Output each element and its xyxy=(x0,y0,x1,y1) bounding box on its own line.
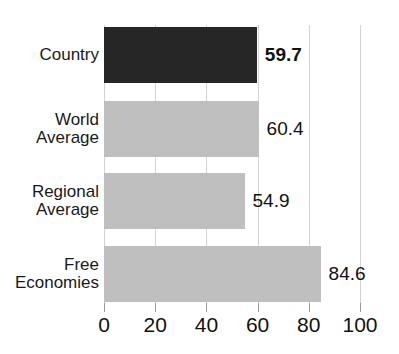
value-label: 59.7 xyxy=(265,45,302,64)
chart-title: Economic Freedom Score xyxy=(0,0,399,5)
value-label: 54.9 xyxy=(253,191,290,210)
axis-tick xyxy=(104,303,105,312)
gridline xyxy=(360,25,361,303)
plot-area xyxy=(104,25,360,303)
x-axis: 020406080100 xyxy=(0,303,399,354)
axis-tick-label: 20 xyxy=(144,314,167,335)
value-label: 60.4 xyxy=(267,119,304,138)
bar xyxy=(104,101,259,157)
category-axis-labels: CountryWorld AverageRegional AverageFree… xyxy=(0,25,99,303)
bar xyxy=(104,27,257,83)
bar-chart: Economic Freedom Score CountryWorld Aver… xyxy=(0,0,399,354)
axis-tick-label: 60 xyxy=(246,314,269,335)
bar xyxy=(104,173,245,229)
axis-tick-label: 40 xyxy=(195,314,218,335)
axis-tick-label: 100 xyxy=(342,314,377,335)
axis-tick xyxy=(206,303,207,312)
axis-tick xyxy=(258,303,259,312)
axis-tick xyxy=(155,303,156,312)
category-label: Free Economies xyxy=(3,256,99,292)
axis-tick xyxy=(360,303,361,312)
category-label: Country xyxy=(3,46,99,64)
axis-tick-label: 0 xyxy=(98,314,110,335)
category-label: World Average xyxy=(3,111,99,147)
axis-tick xyxy=(309,303,310,312)
category-label: Regional Average xyxy=(3,183,99,219)
value-label: 84.6 xyxy=(329,264,366,283)
bar xyxy=(104,246,321,302)
axis-tick-label: 80 xyxy=(297,314,320,335)
